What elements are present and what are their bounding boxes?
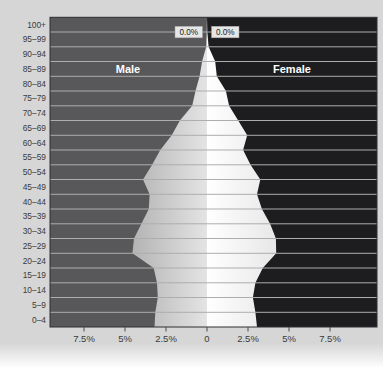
age-group-label: 40–44 bbox=[23, 197, 47, 207]
age-group-label: 55–59 bbox=[23, 152, 47, 162]
pyramid-svg-canvas: 7.5%5%2.5%02.5%5%7.5%100+95–9990–9485–89… bbox=[0, 0, 383, 367]
female-label: Female bbox=[273, 63, 311, 75]
x-tick-label: 5% bbox=[282, 333, 296, 344]
age-group-label: 90–94 bbox=[23, 49, 47, 59]
age-group-label: 60–64 bbox=[23, 138, 47, 148]
age-group-label: 0–4 bbox=[32, 315, 46, 325]
callout-male-value: 0.0% bbox=[179, 28, 198, 37]
x-tick-label: 2.5% bbox=[155, 333, 177, 344]
callout-female-value: 0.0% bbox=[216, 28, 235, 37]
x-tick-label: 5% bbox=[118, 333, 132, 344]
age-group-label: 5–9 bbox=[32, 300, 46, 310]
age-group-label: 20–24 bbox=[23, 256, 47, 266]
x-tick-label: 7.5% bbox=[73, 333, 95, 344]
age-group-label: 10–14 bbox=[23, 285, 47, 295]
age-group-label: 75–79 bbox=[23, 93, 47, 103]
age-group-label: 50–54 bbox=[23, 167, 47, 177]
age-group-label: 100+ bbox=[27, 20, 46, 30]
age-group-label: 25–29 bbox=[23, 241, 47, 251]
panel-bottom-fade bbox=[0, 343, 383, 367]
age-group-label: 95–99 bbox=[23, 34, 47, 44]
age-group-label: 45–49 bbox=[23, 182, 47, 192]
age-group-label: 70–74 bbox=[23, 108, 47, 118]
x-tick-label: 0 bbox=[204, 333, 209, 344]
age-group-label: 80–84 bbox=[23, 79, 47, 89]
age-group-label: 35–39 bbox=[23, 211, 47, 221]
x-tick-label: 7.5% bbox=[319, 333, 341, 344]
age-group-label: 85–89 bbox=[23, 64, 47, 74]
age-group-label: 30–34 bbox=[23, 226, 47, 236]
age-group-label: 65–69 bbox=[23, 123, 47, 133]
male-label: Male bbox=[116, 63, 140, 75]
x-tick-label: 2.5% bbox=[237, 333, 259, 344]
age-group-label: 15–19 bbox=[23, 270, 47, 280]
population-pyramid-chart: 7.5%5%2.5%02.5%5%7.5%100+95–9990–9485–89… bbox=[0, 0, 383, 367]
